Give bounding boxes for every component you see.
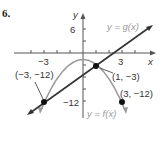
f-arrow-left-icon xyxy=(38,107,43,114)
x-tick-label-3: 3 xyxy=(118,56,123,67)
y-tick-label-neg12: −12 xyxy=(63,97,79,108)
y-axis-label: y xyxy=(72,9,79,20)
f-arrow-right-icon xyxy=(123,107,128,114)
point-neg3-neg12 xyxy=(41,99,47,105)
point-3-neg12 xyxy=(119,99,125,105)
x-axis-label: x xyxy=(147,56,154,67)
label-point-b: (1, −3) xyxy=(112,71,140,82)
y-axis-arrow-icon xyxy=(81,13,86,19)
x-tick-label-neg3: −3 xyxy=(38,56,49,67)
g-arrow-right-icon xyxy=(146,25,153,31)
problem-number: 6. xyxy=(2,7,11,19)
leader-a xyxy=(35,82,43,99)
y-tick-label-6: 6 xyxy=(70,24,75,35)
label-point-a: (−3, −12) xyxy=(15,69,54,80)
label-f: y = f(x) xyxy=(86,108,116,119)
g-arrow-left-icon xyxy=(27,109,34,115)
label-point-c: (3, −12) xyxy=(120,88,153,99)
point-1-neg3 xyxy=(93,63,99,69)
label-g: y = g(x) xyxy=(106,21,139,32)
figure: 6. y x 6 −12 −3 3 (−3, − xyxy=(0,0,164,150)
x-axis-arrow-icon xyxy=(150,51,156,56)
